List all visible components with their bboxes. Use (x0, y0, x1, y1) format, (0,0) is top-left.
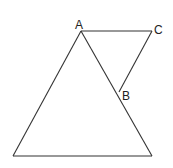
segment-cb (119, 31, 152, 92)
segment-a-bottom-left (13, 31, 81, 156)
label-a: A (75, 18, 83, 32)
label-b: B (122, 89, 130, 103)
label-c: C (154, 23, 163, 37)
geometry-diagram: A C B (0, 0, 173, 168)
